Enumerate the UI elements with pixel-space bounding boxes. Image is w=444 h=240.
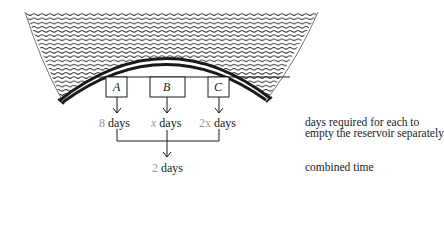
time-c-unit: days	[214, 116, 236, 130]
combine-bracket	[117, 129, 219, 157]
time-c-value: 2x	[199, 116, 211, 130]
outlet-label-b: B	[163, 81, 170, 93]
combined-time-unit: days	[161, 161, 183, 175]
combined-time: 2 days	[152, 162, 183, 174]
annotation-combined: combined time	[305, 162, 374, 173]
combined-time-value: 2	[152, 161, 158, 175]
arrow-down-icon	[163, 97, 171, 113]
time-a: 8 days	[99, 117, 130, 129]
time-a-value: 8	[99, 116, 105, 130]
time-c: 2x days	[199, 117, 236, 129]
time-b-unit: days	[159, 116, 181, 130]
time-b-value: x	[151, 116, 156, 130]
time-a-unit: days	[108, 116, 130, 130]
annotation-separate-line2: empty the reservoir separately	[305, 128, 444, 139]
outlet-label-a: A	[113, 81, 120, 93]
arrow-down-icon	[113, 97, 121, 113]
time-b: x days	[151, 117, 181, 129]
outlet-label-c: C	[214, 81, 222, 93]
arrow-down-icon	[215, 97, 223, 113]
